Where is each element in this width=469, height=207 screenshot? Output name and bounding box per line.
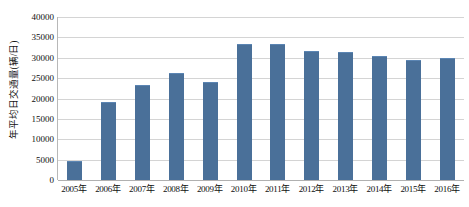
bar[interactable] (67, 161, 82, 180)
gridline (58, 180, 464, 181)
bar[interactable] (237, 44, 252, 180)
bar-slot (430, 17, 464, 180)
bar-slot (227, 17, 261, 180)
x-axis-tick-label: 2008年 (159, 182, 193, 202)
bar[interactable] (169, 73, 184, 180)
bar-slot (396, 17, 430, 180)
x-axis-tick-label: 2015年 (396, 182, 430, 202)
bar[interactable] (135, 85, 150, 180)
bar-slot (261, 17, 295, 180)
bar-chart: 年平均日交通量(辆/日) 400003500030000250002000015… (0, 0, 469, 207)
y-axis-tick-label: 5000 (36, 155, 54, 165)
bar[interactable] (101, 102, 116, 180)
x-axis-tick-label: 2005年 (57, 182, 91, 202)
bar-slot (295, 17, 329, 180)
x-axis-tick-label: 2014年 (362, 182, 396, 202)
bar-slot (159, 17, 193, 180)
y-axis-tick-label: 35000 (32, 32, 55, 42)
x-axis-tick-label: 2009年 (193, 182, 227, 202)
x-axis-tick-label: 2011年 (261, 182, 295, 202)
plot-area (57, 17, 464, 180)
y-axis-tick-label: 40000 (32, 12, 55, 22)
y-axis-tick-labels: 4000035000300002500020000150001000050000 (20, 0, 56, 207)
bar-slot (58, 17, 92, 180)
bar[interactable] (304, 51, 319, 180)
bar-slot (92, 17, 126, 180)
y-axis-tick-label: 20000 (32, 94, 55, 104)
x-axis-tick-label: 2016年 (430, 182, 464, 202)
bar[interactable] (372, 56, 387, 180)
bar[interactable] (406, 60, 421, 180)
y-axis-tick-label: 10000 (32, 134, 55, 144)
bar-slot (329, 17, 363, 180)
x-axis-tick-label: 2013年 (328, 182, 362, 202)
x-axis-tick-label: 2010年 (227, 182, 261, 202)
bar[interactable] (203, 82, 218, 180)
x-axis-tick-labels: 2005年2006年2007年2008年2009年2010年2011年2012年… (57, 182, 464, 202)
y-axis-tick-label: 15000 (32, 114, 55, 124)
y-axis-tick-label: 0 (50, 175, 55, 185)
x-axis-tick-label: 2012年 (294, 182, 328, 202)
y-axis-title-label: 年平均日交通量(辆/日) (6, 41, 20, 140)
x-axis-tick-label: 2006年 (91, 182, 125, 202)
bar[interactable] (338, 52, 353, 180)
bar-series (58, 17, 464, 180)
bar-slot (126, 17, 160, 180)
bar[interactable] (270, 44, 285, 180)
bar-slot (193, 17, 227, 180)
x-axis-tick-label: 2007年 (125, 182, 159, 202)
y-axis-tick-label: 25000 (32, 73, 55, 83)
y-axis-tick-label: 30000 (32, 53, 55, 63)
bar-slot (362, 17, 396, 180)
bar[interactable] (440, 58, 455, 180)
